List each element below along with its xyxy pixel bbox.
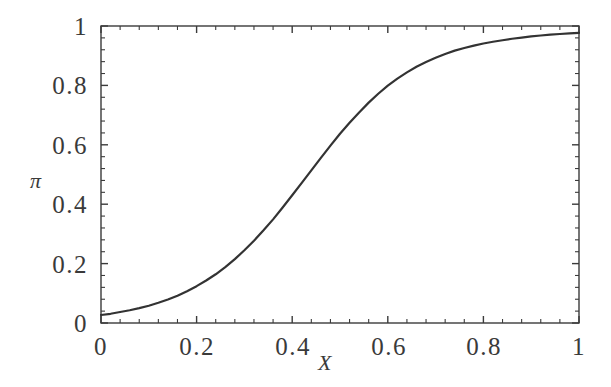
plot-svg	[0, 0, 611, 387]
y-tick-label-0: 0	[40, 311, 88, 336]
y-axis-title: π	[30, 170, 41, 192]
plot-frame	[101, 26, 579, 323]
y-tick-label-0-8: 0.8	[14, 73, 88, 98]
x-tick-label-0-8: 0.8	[466, 334, 502, 359]
x-tick-label-0-6: 0.6	[371, 334, 407, 359]
x-tick-label-0: 0	[94, 334, 108, 359]
y-tick-label-0-4: 0.4	[14, 192, 88, 217]
y-tick-label-0-2: 0.2	[14, 252, 88, 277]
y-tick-label-0-6: 0.6	[14, 133, 88, 158]
axis-ticks	[101, 26, 579, 323]
x-tick-label-0-2: 0.2	[179, 334, 215, 359]
data-curve	[101, 33, 579, 315]
x-axis-title: X	[318, 352, 331, 374]
x-tick-label-0-4: 0.4	[275, 334, 311, 359]
x-tick-label-1: 1	[572, 334, 586, 359]
figure-canvas: 1 0.8 0.6 0.4 0.2 0 0 0.2 0.4 0.6 0.8 1 …	[0, 0, 611, 387]
y-tick-label-1: 1	[40, 14, 88, 39]
